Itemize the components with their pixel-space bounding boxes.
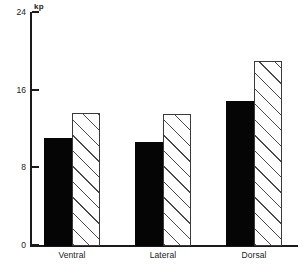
x-axis-label-dorsal: Dorsal — [224, 250, 284, 260]
y-axis-tick-label-0: 0 — [2, 240, 26, 250]
bar-hatched — [254, 61, 282, 246]
bar-hatched — [72, 113, 100, 246]
x-axis-label-lateral: Lateral — [133, 250, 193, 260]
y-axis-tick-label-24: 24 — [2, 7, 26, 17]
y-axis-tick-label-16: 16 — [2, 85, 26, 95]
bar-group — [44, 12, 100, 246]
bar-group — [226, 12, 282, 246]
bar-solid — [226, 101, 254, 246]
bar-solid — [135, 142, 163, 246]
bar-chart: kp 241680 VentralLateralDorsal — [0, 0, 304, 264]
bar-hatched — [163, 114, 191, 246]
y-axis-unit-label: kp — [34, 2, 44, 11]
x-axis-label-ventral: Ventral — [42, 250, 102, 260]
plot-area — [32, 12, 298, 246]
bar-group — [135, 12, 191, 246]
y-axis-tick-label-8: 8 — [2, 162, 26, 172]
bar-solid — [44, 138, 72, 246]
